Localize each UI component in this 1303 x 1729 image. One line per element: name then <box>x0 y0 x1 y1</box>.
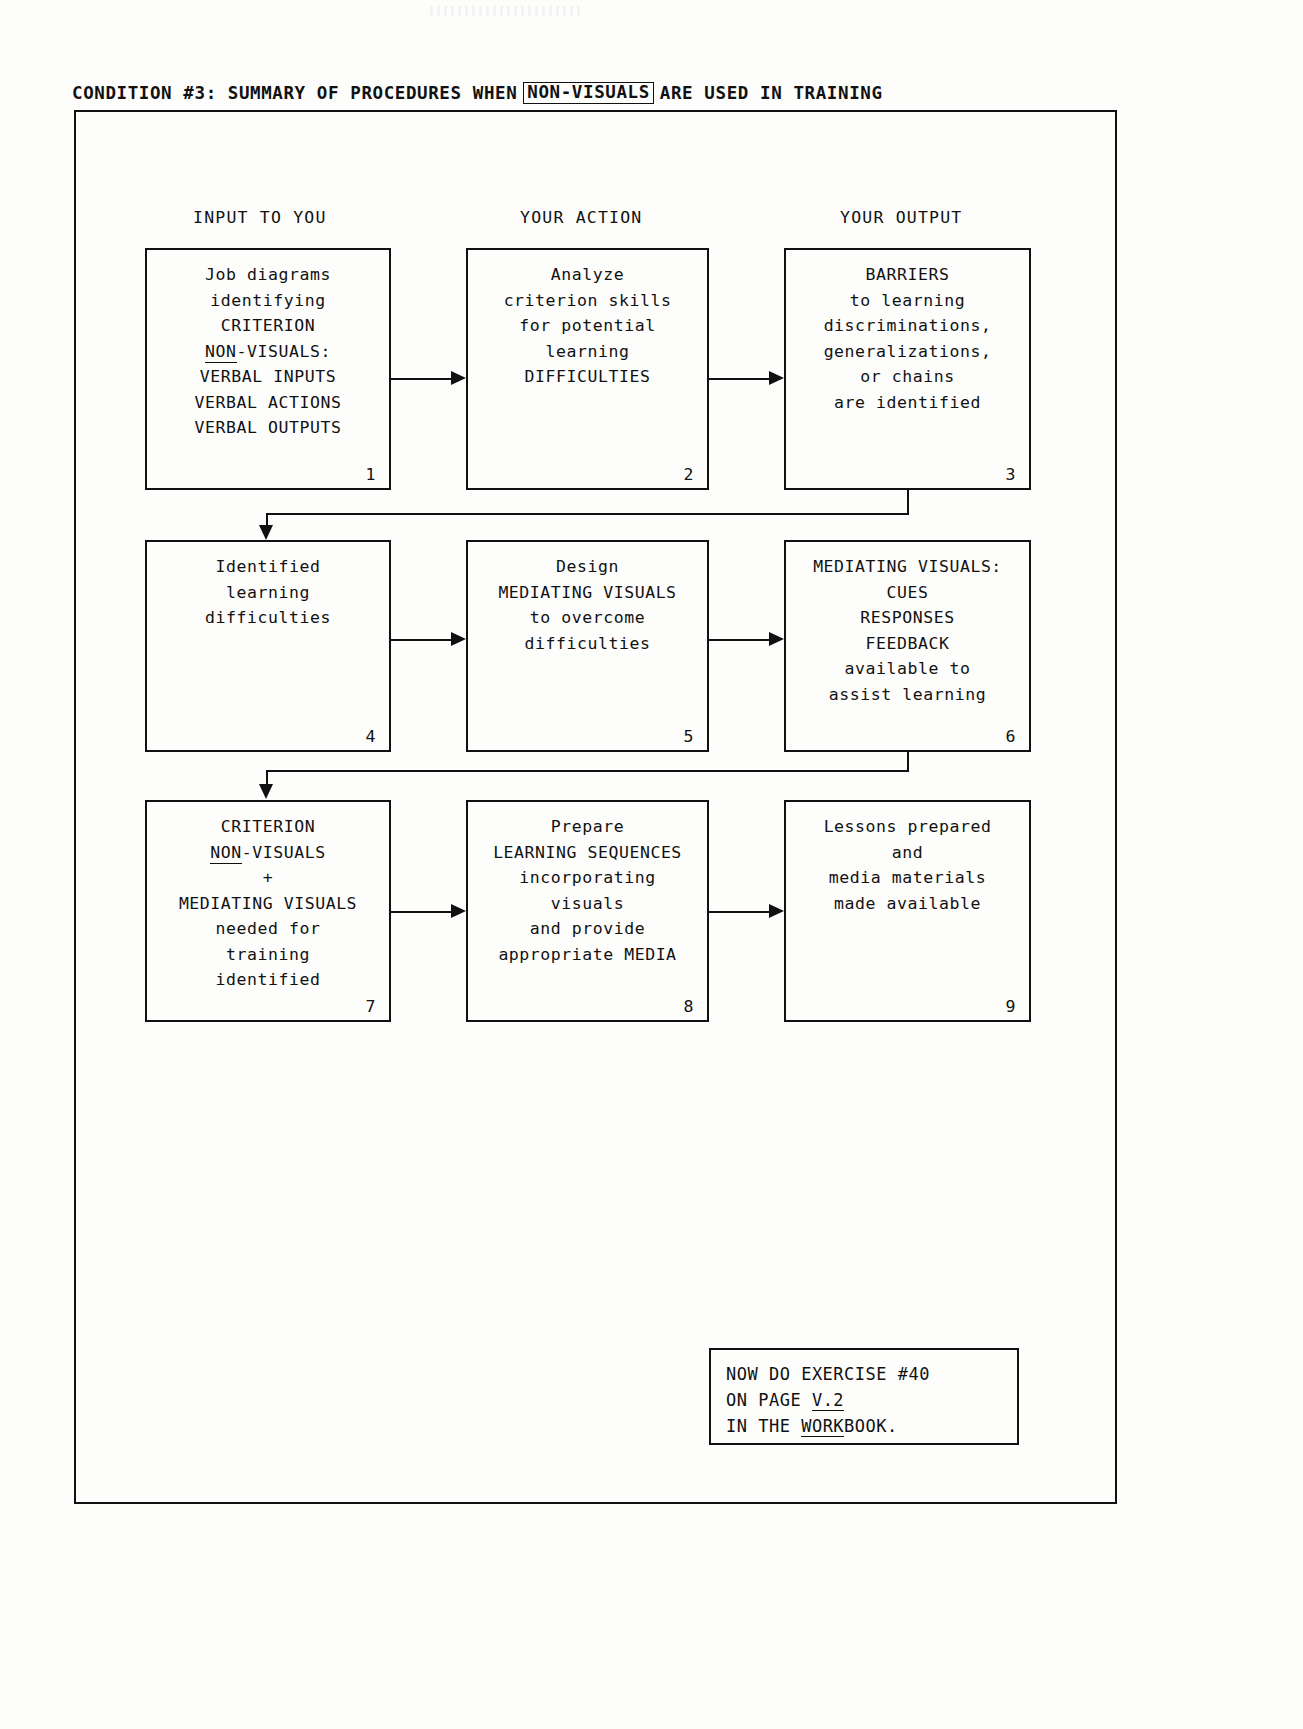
flow-box-9[interactable]: Lessons prepared and media materials mad… <box>784 800 1031 1022</box>
flow-box-1-number: 1 <box>366 465 376 484</box>
flow-box-1-term-rest: -VISUALS: <box>237 342 331 361</box>
column-header-action: YOUR ACTION <box>520 208 642 227</box>
arrow-5-to-6-head <box>769 632 784 646</box>
flow-box-2[interactable]: Analyze criterion skills for potential l… <box>466 248 709 490</box>
connector-3-to-4-vert-right <box>907 490 909 515</box>
flow-box-8-text: Prepare LEARNING SEQUENCES incorporating… <box>468 814 707 967</box>
arrow-2-to-3-head <box>769 371 784 385</box>
arrow-4-to-5-line <box>391 639 451 641</box>
flow-box-3-text: BARRIERS to learning discriminations, ge… <box>786 262 1029 415</box>
arrow-7-to-8-line <box>391 911 451 913</box>
flow-box-6[interactable]: MEDIATING VISUALS: CUES RESPONSES FEEDBA… <box>784 540 1031 752</box>
page-title-mid: SUMMARY OF PROCEDURES WHEN <box>228 83 518 103</box>
arrow-7-to-8-head <box>451 904 466 918</box>
flow-box-8[interactable]: Prepare LEARNING SEQUENCES incorporating… <box>466 800 709 1022</box>
exercise-note-text: NOW DO EXERCISE #40 ON PAGE V.2 IN THE W… <box>726 1361 930 1439</box>
flow-box-5-number: 5 <box>684 727 694 746</box>
flow-box-3-number: 3 <box>1006 465 1016 484</box>
note-line-1: NOW DO EXERCISE #40 <box>726 1364 930 1384</box>
flow-box-9-text: Lessons prepared and media materials mad… <box>786 814 1029 916</box>
scan-artifact <box>430 6 580 16</box>
flow-box-1[interactable]: Job diagrams identifying CRITERION NON-V… <box>145 248 391 490</box>
arrow-8-to-9-line <box>709 911 769 913</box>
flow-box-7-number: 7 <box>366 997 376 1016</box>
note-line-2: ON PAGE V.2 <box>726 1390 844 1411</box>
flow-box-2-number: 2 <box>684 465 694 484</box>
exercise-note-box[interactable]: NOW DO EXERCISE #40 ON PAGE V.2 IN THE W… <box>709 1348 1019 1445</box>
connector-3-to-4-horiz <box>266 513 909 515</box>
flow-box-6-text: MEDIATING VISUALS: CUES RESPONSES FEEDBA… <box>786 554 1029 707</box>
flow-box-7-text: CRITERION NON-VISUALS + MEDIATING VISUAL… <box>147 814 389 993</box>
flow-box-1-text: Job diagrams identifying CRITERION NON-V… <box>147 262 389 441</box>
page-title: CONDITION #3: SUMMARY OF PROCEDURES WHEN… <box>72 80 1252 106</box>
arrow-2-to-3-line <box>709 378 769 380</box>
page-title-suffix: ARE USED IN TRAINING <box>660 83 883 103</box>
flow-box-5-text: Design MEDIATING VISUALS to overcome dif… <box>468 554 707 656</box>
flow-box-8-number: 8 <box>684 997 694 1016</box>
flow-box-4-text: Identified learning difficulties <box>147 554 389 631</box>
note-line-3: IN THE WORKBOOK. <box>726 1416 898 1437</box>
flow-box-6-number: 6 <box>1006 727 1016 746</box>
column-header-output: YOUR OUTPUT <box>840 208 962 227</box>
arrow-1-to-2-line <box>391 378 451 380</box>
arrow-8-to-9-head <box>769 904 784 918</box>
flow-box-2-text: Analyze criterion skills for potential l… <box>468 262 707 390</box>
arrow-5-to-6-line <box>709 639 769 641</box>
page-title-boxed-term: NON-VISUALS <box>523 82 654 103</box>
connector-3-to-4-head <box>259 525 273 540</box>
flow-box-4[interactable]: Identified learning difficulties 4 <box>145 540 391 752</box>
column-header-input: INPUT TO YOU <box>193 208 327 227</box>
connector-6-to-7-horiz <box>266 770 909 772</box>
flow-box-9-number: 9 <box>1006 997 1016 1016</box>
flow-box-3[interactable]: BARRIERS to learning discriminations, ge… <box>784 248 1031 490</box>
flow-box-7[interactable]: CRITERION NON-VISUALS + MEDIATING VISUAL… <box>145 800 391 1022</box>
flow-box-5[interactable]: Design MEDIATING VISUALS to overcome dif… <box>466 540 709 752</box>
flow-box-4-number: 4 <box>366 727 376 746</box>
flow-box-7-term-rest: -VISUALS <box>242 843 326 862</box>
arrow-1-to-2-head <box>451 371 466 385</box>
connector-6-to-7-vert-right <box>907 752 909 772</box>
arrow-4-to-5-head <box>451 632 466 646</box>
connector-6-to-7-head <box>259 784 273 799</box>
page-title-prefix: CONDITION #3: <box>72 83 217 103</box>
